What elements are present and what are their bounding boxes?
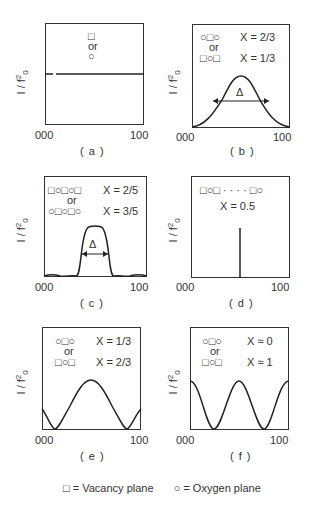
stacking-sequence-2: □○□: [55, 356, 75, 368]
panel-d: I / f20 □○□ · · · · □○ X = 0.5 000 100 (…: [150, 160, 313, 315]
panel-b: I / f20 ○□○ X = 2/3 or □○□ X = 1/3 Δ 000…: [150, 0, 313, 160]
composition-1: X ≈ 0: [247, 335, 273, 347]
panel-e: I / f20 ○□○ X = 1/3 or □○□ X = 2/3 000 1…: [0, 310, 156, 470]
panel-f: I / f20 ○□○ X ≈ 0 or □○□ X ≈ 1 000 100 (…: [150, 310, 313, 470]
panel-c: I / f20 □○□○□ X = 2/5 or ○□○□○ X = 3/5 Δ…: [0, 160, 156, 315]
oxygen-symbol: ○: [88, 50, 95, 62]
x-tick-start: 000: [35, 434, 53, 446]
composition-1: X = 2/3: [240, 31, 275, 43]
composition-1: X = 0.5: [220, 200, 255, 212]
stacking-sequence-2: □○□: [200, 52, 220, 64]
panel-caption: ( c ): [80, 297, 104, 309]
panel-a: I / f20 □ or ○ 000 100 ( a ): [0, 0, 156, 160]
oxygen-plane-label: = Oxygen plane: [183, 482, 260, 494]
x-tick-end: 100: [270, 434, 288, 446]
composition-2: X ≈ 1: [247, 356, 273, 368]
stacking-sequence-2: ○□○□○: [48, 205, 81, 217]
panel-caption: ( f ): [230, 450, 252, 462]
panel-caption: ( e ): [80, 450, 105, 462]
legend: □ = Vacancy plane ○ = Oxygen plane: [63, 482, 261, 494]
x-tick-start: 000: [176, 131, 194, 143]
x-tick-end: 100: [273, 131, 291, 143]
intensity-curve: [0, 310, 156, 470]
x-tick-end: 100: [271, 281, 289, 293]
panel-caption: ( b ): [230, 145, 255, 157]
oxygen-plane-icon: ○: [174, 482, 181, 494]
stacking-sequence-2: □○□: [202, 356, 222, 368]
panel-caption: ( a ): [80, 145, 105, 157]
x-tick-start: 000: [176, 434, 194, 446]
x-tick-start: 000: [35, 129, 53, 141]
width-marker: Δ: [236, 86, 243, 98]
width-marker: Δ: [89, 238, 96, 250]
composition-1: X = 2/5: [103, 184, 138, 196]
composition-1: X = 1/3: [96, 335, 131, 347]
composition-2: X = 2/3: [96, 356, 131, 368]
x-tick-end: 100: [130, 129, 148, 141]
x-tick-end: 100: [130, 281, 148, 293]
vacancy-plane-label: = Vacancy plane: [73, 482, 154, 494]
x-tick-start: 000: [176, 281, 194, 293]
stacking-sequence-1: □○□ · · · · □○: [200, 184, 263, 196]
composition-2: X = 3/5: [103, 205, 138, 217]
x-tick-start: 000: [35, 281, 53, 293]
x-tick-end: 100: [130, 434, 148, 446]
intensity-curve: [150, 310, 313, 470]
vacancy-plane-icon: □: [63, 482, 70, 494]
panel-caption: ( d ): [229, 297, 254, 309]
composition-2: X = 1/3: [240, 52, 275, 64]
